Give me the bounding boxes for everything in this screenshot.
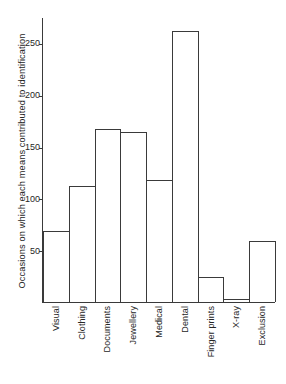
x-tick-label: Jewellery <box>128 306 138 344</box>
x-tick-label: X-ray <box>231 306 241 328</box>
x-tick-label-cell: Medical <box>146 306 172 384</box>
bar-clothing <box>69 186 96 302</box>
x-tick-label: Dental <box>180 306 190 333</box>
x-axis-tick-labels: VisualClothingDocumentsJewelleryMedicalD… <box>43 306 275 384</box>
x-tick-label-cell: Exclusion <box>249 306 275 384</box>
x-tick-label-cell: Jewellery <box>120 306 146 384</box>
bar-chart-figure: Occasions on which each means contribute… <box>0 0 286 384</box>
x-tick-label: Medical <box>154 306 164 338</box>
y-tick-label: 150 <box>14 143 40 152</box>
x-tick-label: Exclusion <box>257 306 267 345</box>
bar-medical <box>146 180 173 302</box>
x-tick-label: Documents <box>102 306 112 352</box>
bar-finger-prints <box>198 277 225 302</box>
x-tick-label: Clothing <box>77 306 87 340</box>
x-tick-label-cell: Clothing <box>69 306 95 384</box>
y-tick-mark <box>39 148 42 149</box>
y-tick-mark <box>39 44 42 45</box>
x-tick-label-cell: Finger prints <box>198 306 224 384</box>
bar-documents <box>95 129 122 302</box>
y-axis-tick-labels: 50100150200250 <box>14 0 40 384</box>
x-tick-label: Visual <box>51 306 61 331</box>
y-tick-label: 100 <box>14 195 40 204</box>
bar-dental <box>172 31 199 302</box>
x-tick-label-cell: Documents <box>95 306 121 384</box>
y-tick-mark <box>39 251 42 252</box>
bar-visual <box>43 231 70 302</box>
y-tick-mark <box>39 199 42 200</box>
x-tick-label-cell: X-ray <box>223 306 249 384</box>
x-tick-label-cell: Visual <box>43 306 69 384</box>
x-tick-label-cell: Dental <box>172 306 198 384</box>
bar-exclusion <box>249 241 276 302</box>
plot-area <box>42 18 275 303</box>
bar-x-ray <box>223 299 250 302</box>
y-tick-label: 50 <box>14 247 40 256</box>
y-tick-label: 200 <box>14 91 40 100</box>
bar-jewellery <box>120 132 147 302</box>
y-tick-label: 250 <box>14 39 40 48</box>
x-tick-label: Finger prints <box>206 306 216 357</box>
bar-series <box>43 18 275 302</box>
x-axis-line <box>42 302 275 303</box>
y-tick-mark <box>39 96 42 97</box>
